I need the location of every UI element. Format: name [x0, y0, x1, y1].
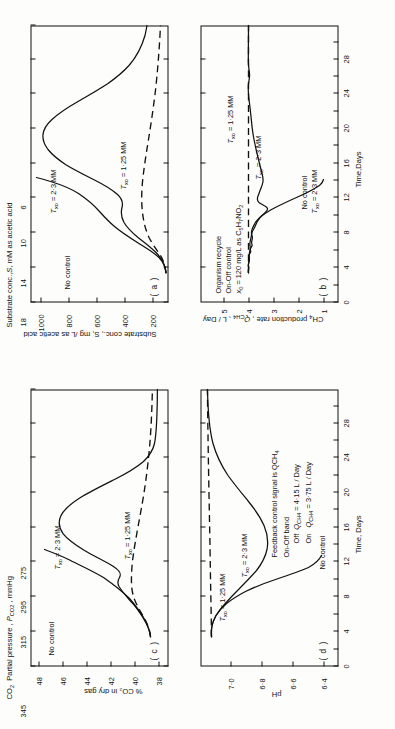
figure-sheet: 38 40 42 44 46 48 % CO₂ in dry gas 275 2…	[0, 0, 395, 729]
panel-a-curve-txo-125	[141, 25, 165, 272]
panel-c-curve-txo-125	[131, 389, 152, 636]
panel-d-curve-no-control	[211, 555, 321, 636]
panel-c: 38 40 42 44 46 48 % CO₂ in dry gas 275 2…	[0, 364, 200, 729]
panel-b: 0 4 8 12 16 20 24 28 Time,Days 1 2 3 4 5…	[195, 0, 395, 365]
panel-a-curves	[0, 0, 200, 365]
panel-c-curve-txo-23	[59, 389, 157, 636]
panel-a: 200 400 600 800 1000 Substrate conc., S,…	[0, 0, 200, 365]
panel-c-curve-no-control	[44, 549, 150, 636]
panel-d-curves	[195, 364, 395, 729]
panel-b-curve-txo-23	[248, 25, 267, 272]
panel-c-curves	[0, 364, 200, 729]
panel-a-curve-no-control	[36, 177, 166, 272]
panel-d-curve-txo-23	[207, 389, 267, 636]
panel-b-curves	[195, 0, 395, 365]
panel-d: 0 4 8 12 16 20 24 28 Time, Days 6·4 6·6 …	[195, 364, 395, 729]
